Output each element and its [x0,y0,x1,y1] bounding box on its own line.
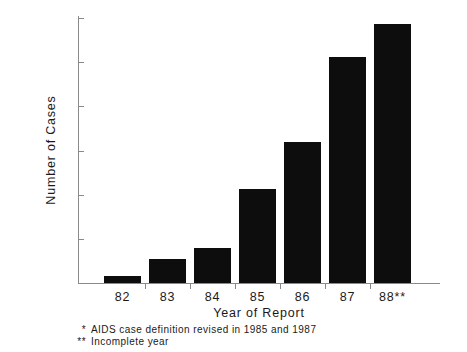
x-tick-mark [235,284,236,289]
y-tick: 300 [0,18,78,19]
x-tick-mark [145,284,146,289]
footnote-text: AIDS case definition revised in 1985 and… [91,324,316,335]
x-tick-mark [370,284,371,289]
y-tick: 50 [0,239,78,240]
footnote-marker: ** [60,336,91,348]
plot-area [78,18,440,283]
chart-footnotes: *AIDS case definition revised in 1985 an… [60,324,460,348]
y-tick-mark [78,283,84,284]
x-tick-label: 88** [358,290,428,304]
bar [284,142,321,283]
y-tick: 100 [0,195,78,196]
x-axis-title: Year of Report [78,306,440,320]
x-tick-mark [325,284,326,289]
bar [374,24,411,283]
footnote-marker: * [60,324,91,336]
footnote-text: Incomplete year [91,336,169,347]
bar [104,276,141,283]
y-tick: 250 [0,62,78,63]
x-tick-mark [190,284,191,289]
footnote: *AIDS case definition revised in 1985 an… [60,324,460,336]
bar [329,57,366,283]
bar-chart: Number of Cases 050100150200250300 82838… [0,0,467,352]
footnote: **Incomplete year [60,336,460,348]
x-axis-line [78,283,440,284]
bar [194,248,231,283]
bar [149,259,186,283]
y-tick: 0 [0,283,78,284]
bar [239,189,276,283]
y-tick: 200 [0,106,78,107]
y-tick: 150 [0,151,78,152]
x-tick-mark [280,284,281,289]
